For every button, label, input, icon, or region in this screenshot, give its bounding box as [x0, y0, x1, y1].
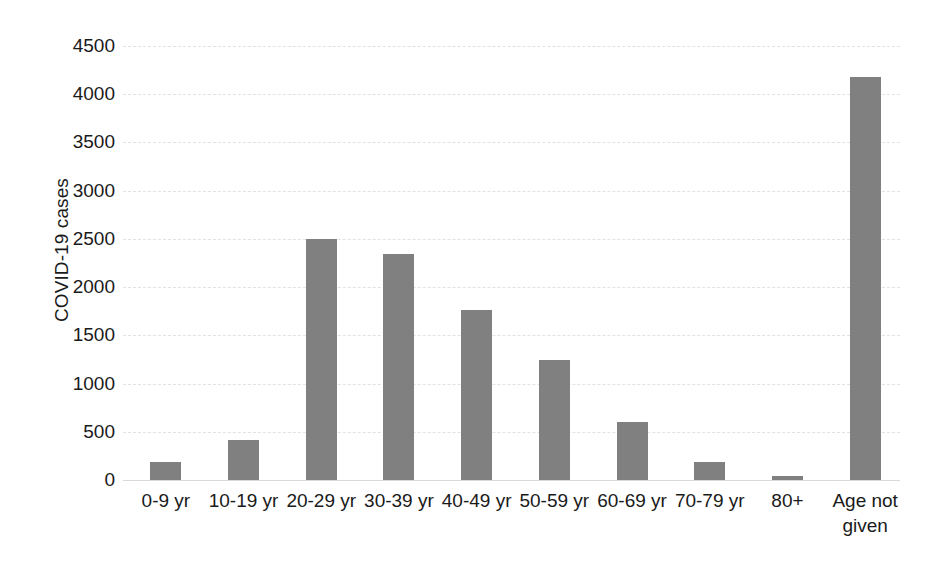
y-axis-tick-label: 0: [45, 470, 115, 489]
bar: [617, 422, 648, 480]
y-axis-ticks: 050010001500200025003000350040004500: [39, 46, 115, 480]
bar: [461, 310, 492, 480]
x-axis-line: [123, 480, 900, 481]
bar: [228, 440, 259, 481]
y-axis-tick-label: 2000: [45, 277, 115, 296]
x-axis-labels: 0-9 yr10-19 yr20-29 yr30-39 yr40-49 yr50…: [123, 488, 900, 552]
bar: [694, 462, 725, 480]
y-axis-tick-label: 1500: [45, 325, 115, 344]
y-axis-tick-label: 4500: [45, 36, 115, 55]
bar: [850, 77, 881, 480]
bar: [383, 254, 414, 480]
bars-group: [123, 46, 900, 480]
y-axis-tick-label: 3000: [45, 181, 115, 200]
bar-chart: COVID-19 cases 0500100015002000250030003…: [0, 0, 941, 561]
x-axis-tick-label: Age not given: [810, 488, 920, 538]
bar: [306, 239, 337, 480]
bar: [772, 476, 803, 480]
bar: [150, 462, 181, 480]
y-axis-tick-label: 1000: [45, 374, 115, 393]
y-axis-tick-label: 4000: [45, 84, 115, 103]
y-axis-tick-label: 500: [45, 422, 115, 441]
y-axis-tick-label: 3500: [45, 132, 115, 151]
bar: [539, 360, 570, 480]
y-axis-tick-label: 2500: [45, 229, 115, 248]
